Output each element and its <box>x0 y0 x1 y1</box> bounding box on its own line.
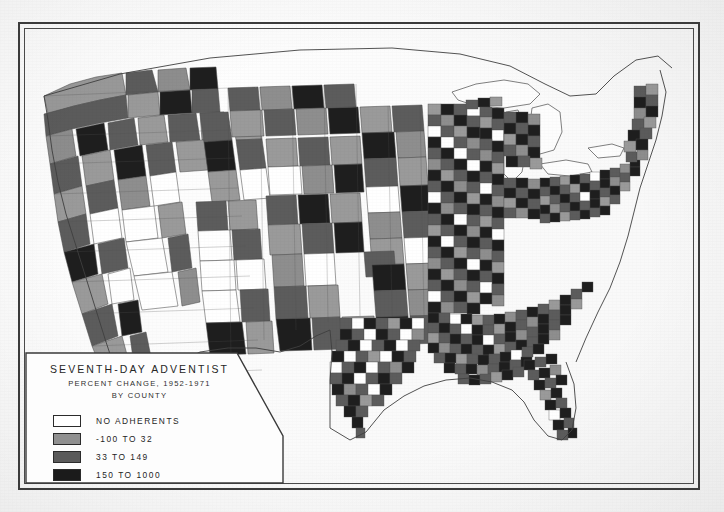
legend-row: NO ADHERENTS <box>53 413 250 429</box>
legend-label: 33 TO 149 <box>96 452 149 462</box>
legend-label: -100 TO 32 <box>96 434 153 444</box>
legend-class-list: NO ADHERENTS -100 TO 32 33 TO 149 150 TO… <box>53 413 250 483</box>
legend-row: 150 TO 1000 <box>53 467 250 483</box>
legend-subtitle: PERCENT CHANGE, 1952-1971 <box>29 379 250 388</box>
legend-label: NO ADHERENTS <box>96 416 180 426</box>
swatch-minus100-to-32 <box>53 433 81 445</box>
legend-label: 150 TO 1000 <box>96 470 161 480</box>
legend-title: SEVENTH-DAY ADVENTIST <box>29 363 250 375</box>
swatch-150-to-1000 <box>53 469 81 481</box>
legend-row: -100 TO 32 <box>53 431 250 447</box>
map-legend: SEVENTH-DAY ADVENTIST PERCENT CHANGE, 19… <box>25 352 290 484</box>
legend-unit-line: BY COUNTY <box>29 391 250 400</box>
legend-row: 33 TO 149 <box>53 449 250 465</box>
swatch-33-to-149 <box>53 451 81 463</box>
swatch-no-adherents <box>53 415 81 427</box>
